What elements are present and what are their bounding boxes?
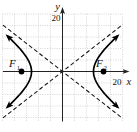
focus-left-subscript: 1: [17, 64, 20, 71]
focus-right-subscript: 2: [104, 64, 107, 71]
y-axis-scale-label: 20: [52, 13, 62, 23]
focus-right-label: F: [95, 57, 103, 69]
y-axis-label: y: [54, 1, 60, 12]
x-axis-scale-label: 20: [113, 77, 123, 87]
focus-left-label: F: [8, 57, 16, 69]
x-axis-label: x: [126, 76, 132, 87]
graph-canvas: y 20 x 20 F 1 F 2: [0, 0, 137, 132]
axis-lines: [3, 10, 127, 122]
hyperbola-figure: y 20 x 20 F 1 F 2: [0, 0, 137, 132]
